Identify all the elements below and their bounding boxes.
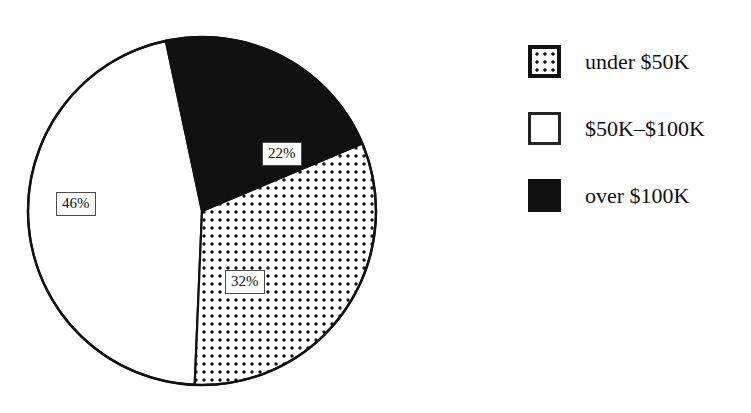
white-swatch-icon bbox=[528, 112, 561, 145]
pie-value-label-under-50k: 32% bbox=[225, 270, 265, 294]
dotted-swatch-icon bbox=[528, 45, 561, 78]
chart-legend: under $50K $50K–$100K over $100K bbox=[528, 28, 751, 229]
legend-item-50k-100k: $50K–$100K bbox=[528, 95, 751, 162]
pie-chart-figure: 22% 32% 46% under $50K $50K–$100K over $… bbox=[0, 0, 751, 413]
pie-value-label-over-100k: 22% bbox=[262, 142, 302, 166]
legend-item-over-100k: over $100K bbox=[528, 162, 751, 229]
legend-label-50k-100k: $50K–$100K bbox=[585, 118, 705, 140]
black-swatch-icon bbox=[528, 179, 561, 212]
legend-label-over-100k: over $100K bbox=[585, 185, 689, 207]
legend-label-under-50k: under $50K bbox=[585, 51, 689, 73]
pie-value-label-50k-100k: 46% bbox=[56, 192, 96, 216]
legend-item-under-50k: under $50K bbox=[528, 28, 751, 95]
pie-chart-area: 22% 32% 46% bbox=[0, 0, 420, 413]
